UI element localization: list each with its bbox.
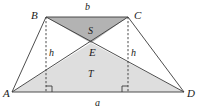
trapezoid-diagram-svg: [0, 0, 200, 110]
region-triangle-aed-fill: [12, 43, 184, 92]
height-label-right: h: [131, 48, 136, 58]
geometry-figure-screenshot: A B C D E S T b a h h: [0, 0, 200, 110]
vertex-label-d: D: [187, 88, 195, 99]
vertex-label-b: B: [31, 10, 38, 21]
vertex-label-a: A: [3, 88, 10, 99]
region-label-s: S: [88, 26, 93, 36]
side-label-a: a: [95, 98, 100, 108]
region-label-t: T: [88, 69, 94, 79]
vertex-label-e: E: [89, 47, 96, 58]
vertex-label-c: C: [134, 10, 141, 21]
height-label-left: h: [49, 48, 54, 58]
side-label-b: b: [85, 2, 90, 12]
